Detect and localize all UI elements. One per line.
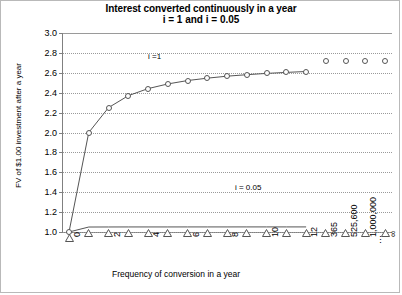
series-annotation: i =1 — [148, 53, 161, 61]
data-point-marker — [86, 130, 92, 136]
series-line — [69, 72, 306, 232]
data-point-marker — [282, 223, 291, 231]
data-point-marker — [163, 223, 172, 231]
data-point-marker — [321, 223, 330, 231]
chart-frame: Interest converted continuously in a yea… — [0, 0, 400, 293]
data-point-marker — [84, 223, 93, 231]
data-point-marker — [183, 223, 192, 231]
data-point-marker — [381, 223, 390, 231]
x-tick-label: 4 — [152, 232, 161, 237]
x-tick-label: 0 — [73, 232, 82, 237]
chart-subtitle: i = 1 and i = 0.05 — [1, 14, 401, 25]
data-point-marker — [343, 58, 349, 64]
data-point-marker — [361, 223, 370, 231]
y-tick-label: 2.8 — [31, 49, 57, 58]
y-tick-mark — [59, 232, 63, 233]
y-tick-label: 1.8 — [31, 148, 57, 157]
y-tick-label: 3.0 — [31, 29, 57, 38]
y-axis-label: FV of $1.00 investment after a year — [14, 46, 23, 206]
data-point-marker — [104, 223, 113, 231]
data-point-marker — [185, 78, 191, 84]
y-tick-label: 2.6 — [31, 69, 57, 78]
y-tick-label: 1.6 — [31, 168, 57, 177]
y-tick-label: 2.2 — [31, 109, 57, 118]
chart-title: Interest converted continuously in a yea… — [1, 3, 401, 14]
y-tick-label: 1.4 — [31, 188, 57, 197]
data-point-marker — [303, 69, 309, 75]
data-point-marker — [262, 223, 271, 231]
data-point-marker — [302, 223, 311, 231]
data-point-marker — [144, 223, 153, 231]
y-tick-label: 1.2 — [31, 208, 57, 217]
data-point-marker — [125, 93, 131, 99]
y-tick-label: 2.4 — [31, 89, 57, 98]
x-axis-label: Frequency of conversion in a year — [61, 269, 291, 279]
data-point-marker — [244, 72, 250, 78]
data-point-marker — [65, 228, 74, 236]
data-point-marker — [124, 223, 133, 231]
x-tick-label: 6 — [192, 232, 201, 237]
axis-break-dots: ⋮ — [376, 238, 385, 242]
data-point-marker — [223, 223, 232, 231]
data-point-marker — [106, 105, 112, 111]
x-tick-label: 2 — [113, 232, 122, 237]
data-point-marker — [341, 223, 350, 231]
data-point-marker — [165, 81, 171, 87]
x-tick-label: 8 — [231, 232, 240, 237]
series-annotation: i = 0.05 — [235, 184, 261, 192]
data-point-marker — [203, 223, 212, 231]
y-tick-label: 2.0 — [31, 129, 57, 138]
y-tick-label: 1.0 — [31, 228, 57, 237]
plot-area: 3.02.82.62.42.22.01.81.61.41.21.0 024681… — [62, 33, 392, 233]
data-point-marker — [242, 223, 251, 231]
data-point-marker — [145, 86, 151, 92]
